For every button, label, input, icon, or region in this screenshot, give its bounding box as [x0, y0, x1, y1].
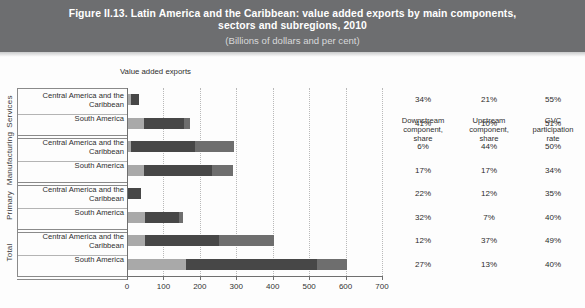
gridline-200: [200, 88, 202, 276]
value-downstream-share: 32%: [394, 213, 452, 222]
bar-segment-2: [145, 212, 179, 223]
axis-tick-label-300: 300: [230, 282, 243, 291]
bar-segment-1: [128, 259, 186, 270]
figure-title-band: Figure II.13. Latin America and the Cari…: [0, 0, 585, 52]
row-label: South America: [23, 208, 124, 217]
group-bracket: [17, 182, 18, 229]
x-axis-line: [127, 276, 383, 277]
value-gvc-rate: 40%: [524, 260, 582, 269]
row-separator: [17, 138, 127, 139]
axis-tick-label-700: 700: [375, 282, 388, 291]
group-bracket: [17, 135, 18, 182]
bar-segment-2: [131, 141, 195, 152]
gridline-100: [163, 88, 165, 276]
value-upstream-share: 10%: [460, 119, 518, 128]
bar-segment-2: [144, 118, 184, 129]
group-label-text: Total: [5, 244, 14, 262]
row-label: Central America and the Caribbean: [23, 185, 124, 203]
value-gvc-rate: 34%: [524, 166, 582, 175]
bar-segment-3: [219, 235, 274, 246]
value-upstream-share: 12%: [460, 189, 518, 198]
bar-segment-2: [131, 94, 139, 105]
figure-subtitle: (Billions of dollars and per cent): [225, 34, 359, 47]
row-separator: [17, 185, 127, 186]
value-downstream-share: 41%: [394, 119, 452, 128]
row-label: South America: [23, 161, 124, 170]
value-downstream-share: 34%: [394, 95, 452, 104]
value-downstream-share: 22%: [394, 189, 452, 198]
bar-segment-3: [195, 141, 233, 152]
value-gvc-rate: 35%: [524, 189, 582, 198]
value-upstream-share: 37%: [460, 236, 518, 245]
plot-region: [127, 88, 382, 276]
group-bracket: [17, 88, 18, 135]
row-separator: [17, 232, 127, 233]
row-separator: [17, 161, 127, 162]
bar-segment-1: [128, 118, 144, 129]
row-separator: [17, 114, 127, 115]
value-gvc-rate: 51%: [524, 119, 582, 128]
bar-segment-2: [186, 259, 317, 270]
value-gvc-rate: 50%: [524, 142, 582, 151]
row-separator: [17, 255, 127, 256]
row-separator: [17, 208, 127, 209]
row-label: South America: [23, 255, 124, 264]
bar-segment-2: [144, 165, 211, 176]
bar-segment-3: [212, 165, 233, 176]
group-separator: [17, 229, 127, 230]
gridline-600: [346, 88, 348, 276]
value-upstream-share: 13%: [460, 260, 518, 269]
row-separator: [17, 279, 127, 280]
axis-tick-label-500: 500: [302, 282, 315, 291]
gridline-300: [236, 88, 238, 276]
y-axis-line: [127, 88, 128, 276]
row-label: Central America and the Caribbean: [23, 91, 124, 109]
group-separator: [17, 276, 127, 277]
bar-segment-1: [128, 212, 145, 223]
figure-root: Figure II.13. Latin America and the Cari…: [0, 0, 585, 308]
group-label-total: Total: [2, 229, 17, 276]
group-label-manufacturing: Manufacturing: [2, 135, 17, 182]
row-label: Central America and the Caribbean: [23, 138, 124, 156]
group-label-services: Services: [2, 88, 17, 135]
value-downstream-share: 17%: [394, 166, 452, 175]
group-bracket: [17, 229, 18, 276]
axis-tick-label-600: 600: [339, 282, 352, 291]
bar-segment-1: [128, 165, 144, 176]
group-label-text: Services: [5, 95, 14, 127]
gridline-400: [273, 88, 275, 276]
group-separator: [17, 135, 127, 136]
value-downstream-share: 27%: [394, 260, 452, 269]
value-downstream-share: 6%: [394, 142, 452, 151]
bar-segment-2: [145, 235, 219, 246]
group-separator: [17, 182, 127, 183]
group-separator: [17, 88, 127, 89]
group-label-primary: Primary: [2, 182, 17, 229]
value-upstream-share: 7%: [460, 213, 518, 222]
value-gvc-rate: 55%: [524, 95, 582, 104]
group-label-text: Primary: [5, 191, 14, 220]
group-label-text: Manufacturing: [5, 132, 14, 185]
plot-axis-label: Value added exports: [120, 67, 191, 76]
bar-segment-3: [184, 118, 189, 129]
gridline-700: [382, 88, 384, 276]
figure-title-line-2: sectors and subregions, 2010: [218, 20, 367, 32]
value-gvc-rate: 49%: [524, 236, 582, 245]
value-upstream-share: 21%: [460, 95, 518, 104]
row-label: Central America and the Caribbean: [23, 232, 124, 250]
value-upstream-share: 44%: [460, 142, 518, 151]
bar-segment-3: [179, 212, 183, 223]
value-downstream-share: 12%: [394, 236, 452, 245]
gridline-500: [309, 88, 311, 276]
bar-segment-1: [128, 235, 145, 246]
axis-tick-label-100: 100: [157, 282, 170, 291]
row-label: South America: [23, 114, 124, 123]
bar-segment-3: [317, 259, 346, 270]
bar-segment-2: [128, 188, 141, 199]
value-upstream-share: 17%: [460, 166, 518, 175]
axis-tick-label-400: 400: [266, 282, 279, 291]
axis-tick-label-0: 0: [125, 282, 129, 291]
axis-tick-label-200: 200: [193, 282, 206, 291]
figure-title-line-1: Figure II.13. Latin America and the Cari…: [69, 8, 517, 20]
value-gvc-rate: 40%: [524, 213, 582, 222]
